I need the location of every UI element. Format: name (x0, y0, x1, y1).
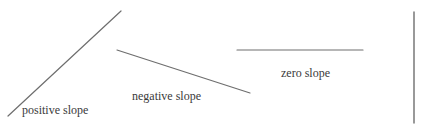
slope-diagram: positive slope negative slope zero slope (0, 0, 430, 130)
negative-slope-label: negative slope (132, 90, 201, 102)
positive-slope-line (8, 11, 121, 116)
negative-slope-line (117, 50, 250, 93)
positive-slope-label: positive slope (22, 104, 88, 116)
zero-slope-label: zero slope (281, 67, 330, 79)
